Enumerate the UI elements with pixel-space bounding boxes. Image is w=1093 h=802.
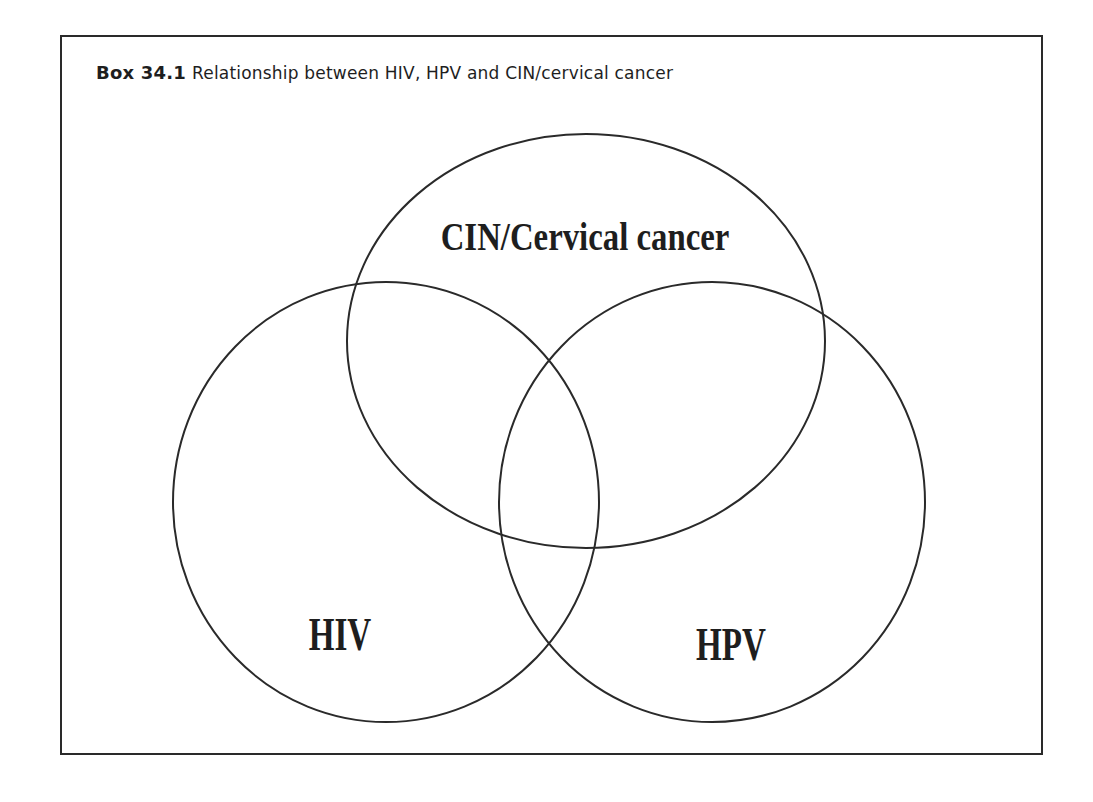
cin-cervical-cancer-circle: [347, 134, 825, 548]
venn-diagram: CIN/Cervical cancer HIV HPV: [0, 0, 1093, 802]
hiv-circle: [173, 282, 599, 722]
hpv-label: HPV: [696, 619, 766, 671]
cin-cervical-cancer-label: CIN/Cervical cancer: [441, 214, 730, 259]
hiv-label: HIV: [309, 609, 372, 661]
